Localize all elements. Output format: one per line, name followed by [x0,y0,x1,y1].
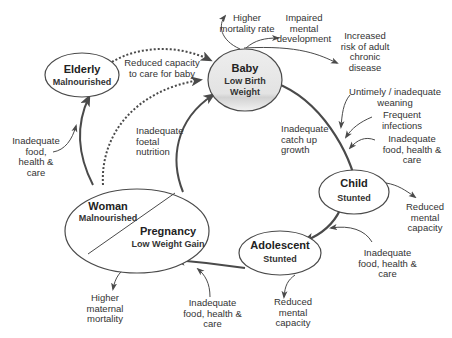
node-adolescent [239,231,321,275]
elderly-title: Elderly [52,63,112,75]
arrow-inadequate-food-adolescent [331,227,372,242]
baby-title: Baby [215,62,275,74]
arrow-adolescent-reduced-mental [284,275,295,297]
label-higher-maternal-mortality: Higher maternal mortality [80,293,130,325]
adolescent-title: Adolescent [240,239,320,251]
label-impaired-mental-development: Impaired mental development [274,13,334,45]
arrow-woman-to-elderly [80,97,93,185]
label-reduced-mental-child: Reduced mental capacity [400,202,450,234]
arrow-infections [346,117,372,137]
child-subtitle: Stunted [324,193,384,203]
label-inadequate-food-woman: Inadequate food, health & care [8,136,64,178]
node-elderly [45,53,119,97]
elderly-subtitle: Malnourished [42,77,122,87]
label-frequent-infections: Frequent infections [372,110,432,131]
label-inadequate-catch-up: Inadequate catch up growth [281,124,341,156]
label-reduced-capacity-care: Reduced capacity to care for baby [122,58,202,79]
label-untimely-weaning: Untimely / inadequate weaning [340,87,450,108]
baby-subtitle: Low Birth Weight [205,76,285,98]
label-inadequate-food-adolescent: Inadequate food, health & care [345,248,430,280]
arrow-child-reduced-mental [386,183,415,197]
arrow-child-to-adolescent [305,210,340,241]
pregnancy-subtitle: Low Weight Gain [118,239,218,249]
label-increased-risk: Increased risk of adult chronic disease [330,31,400,73]
child-title: Child [324,177,384,189]
label-inadequate-food-child: Inadequate food, health & care [372,134,452,166]
pregnancy-title: Pregnancy [128,225,208,237]
label-reduced-mental-adolescent: Reduced mental capacity [268,297,318,329]
arrow-inadequate-food-pregnancy [198,269,210,297]
label-inadequate-foetal-nutrition: Inadequate foetal nutrition [136,126,196,158]
label-inadequate-food-pregnancy: Inadequate food, health & care [170,298,255,330]
adolescent-subtitle: Stunted [240,254,320,264]
woman-title: Woman [78,200,138,212]
label-higher-mortality-rate: Higher mortality rate [212,13,282,34]
woman-subtitle: Malnourished [68,213,148,223]
